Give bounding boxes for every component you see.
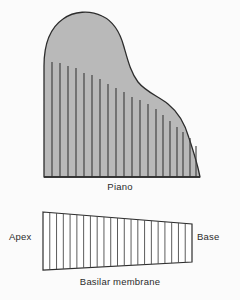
apex-label: Apex: [9, 231, 31, 242]
base-label: Base: [197, 231, 219, 242]
basilar-membrane-diagram: [43, 212, 192, 270]
basilar-membrane-caption: Basilar membrane: [0, 276, 240, 287]
piano-basilar-membrane-figure: [0, 0, 240, 300]
piano-diagram: [44, 12, 200, 177]
piano-caption: Piano: [0, 181, 240, 192]
basilar-membrane-fibers-group: [50, 213, 185, 270]
